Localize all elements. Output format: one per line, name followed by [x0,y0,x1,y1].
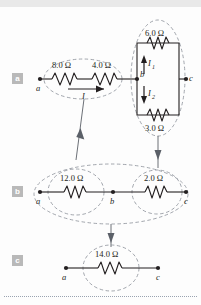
current-arrow-I2-head [141,96,147,104]
label-resistor-3-ohm: 3.0 Ω [145,123,164,133]
panel-c-group: 14.0 Ω a c [62,245,160,291]
node-label-a-panel-b: a [36,196,40,206]
bottom-dotted-rule [4,296,197,297]
resistor-2-ohm [145,186,167,198]
label-resistor-4-ohm: 4.0 Ω [92,60,111,70]
label-resistor-6-ohm: 6.0 Ω [145,28,164,38]
resistor-4-ohm [92,73,117,85]
node-dot-c-panel-c [156,266,160,270]
node-label-c-panel-b: c [184,196,188,206]
label-resistor-2-ohm: 2.0 Ω [144,173,163,183]
node-label-b-panel-a: b [140,69,144,79]
circuit-figure: a b c [0,0,201,305]
current-arrow-I1-head [141,55,147,63]
node-label-c-panel-a: c [189,73,193,83]
label-resistor-12-ohm: 12.0 Ω [60,173,83,183]
current-arrow-I-head [96,86,104,93]
node-label-b-panel-b: b [110,196,114,206]
node-label-a-panel-c: a [62,272,66,282]
node-label-a-panel-a: a [36,83,40,93]
reduction-arrow-right-head [155,150,162,160]
resistor-8-ohm [52,73,77,85]
label-resistor-14-ohm: 14.0 Ω [95,249,118,259]
node-dot-a-panel-b [38,190,42,194]
label-resistor-8-ohm: 8.0 Ω [52,60,71,70]
reduction-arrow-left-head [76,128,84,140]
svg-text:1: 1 [152,64,155,70]
node-dot-a-panel-c [64,266,68,270]
current-label-I2: I 2 [147,88,155,100]
resistor-12-ohm [64,186,86,198]
panel-b-group: 12.0 Ω 2.0 Ω a b c [34,164,188,224]
node-dot-a-panel-a [38,77,42,81]
node-dot-b-panel-b [111,190,115,194]
svg-text:2: 2 [152,94,155,100]
circuit-diagram-svg: 8.0 Ω 4.0 Ω 6.0 Ω 3.0 Ω a b c I I 1 I 2 [0,0,201,305]
panel-a-group: 8.0 Ω 4.0 Ω 6.0 Ω 3.0 Ω a b c I I 1 I 2 [36,20,193,136]
current-label-I1: I 1 [147,58,155,70]
resistor-14-ohm [98,262,122,274]
node-label-c-panel-c: c [156,272,160,282]
reduction-arrow-bottom-head [108,233,115,243]
group-outline-panel-b-total [34,164,188,224]
node-dot-c-panel-b [184,190,188,194]
